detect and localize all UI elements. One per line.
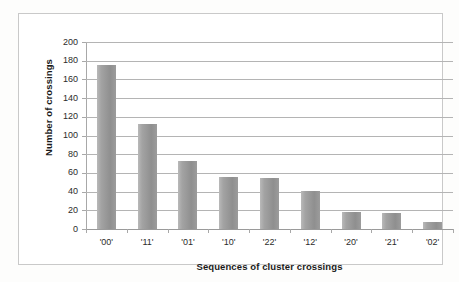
y-tick-label-0: 0 bbox=[38, 225, 78, 234]
x-tick-label-20: '20' bbox=[329, 237, 373, 247]
x-tick-label-00: '00' bbox=[84, 237, 128, 247]
y-tick-label-140: 140 bbox=[38, 94, 78, 103]
x-tick-end bbox=[453, 229, 454, 233]
x-tick-0 bbox=[86, 229, 87, 233]
y-tick-label-160: 160 bbox=[38, 75, 78, 84]
x-tick-label-02: '02' bbox=[411, 237, 455, 247]
y-tick-label-200: 200 bbox=[38, 38, 78, 47]
x-tick-7 bbox=[371, 229, 372, 233]
y-tick-label-80: 80 bbox=[38, 150, 78, 159]
bar-12[interactable] bbox=[301, 191, 320, 229]
bar-00[interactable] bbox=[97, 65, 116, 229]
bar-02[interactable] bbox=[423, 222, 442, 229]
y-tick-label-100: 100 bbox=[38, 131, 78, 140]
bar-22[interactable] bbox=[260, 178, 279, 229]
x-tick-3 bbox=[208, 229, 209, 233]
plot-area bbox=[86, 42, 453, 229]
x-tick-5 bbox=[290, 229, 291, 233]
x-tick-label-12: '12' bbox=[288, 237, 332, 247]
x-axis-title: Sequences of cluster crossings bbox=[86, 261, 453, 272]
gridline-120 bbox=[86, 117, 453, 118]
y-tick-label-120: 120 bbox=[38, 112, 78, 121]
x-tick-label-01: '01' bbox=[166, 237, 210, 247]
y-tick-label-40: 40 bbox=[38, 187, 78, 196]
x-tick-2 bbox=[168, 229, 169, 233]
x-tick-label-10: '10' bbox=[207, 237, 251, 247]
x-tick-8 bbox=[412, 229, 413, 233]
gridline-140 bbox=[86, 98, 453, 99]
x-tick-6 bbox=[331, 229, 332, 233]
gridline-0 bbox=[86, 229, 453, 230]
bar-20[interactable] bbox=[342, 212, 361, 229]
gridline-180 bbox=[86, 61, 453, 62]
y-tick-label-180: 180 bbox=[38, 56, 78, 65]
y-tick-label-60: 60 bbox=[38, 168, 78, 177]
y-tick-label-20: 20 bbox=[38, 206, 78, 215]
x-tick-4 bbox=[249, 229, 250, 233]
x-tick-label-22: '22' bbox=[248, 237, 292, 247]
bar-21[interactable] bbox=[382, 213, 401, 229]
bar-01[interactable] bbox=[178, 161, 197, 229]
x-tick-1 bbox=[127, 229, 128, 233]
x-tick-label-21: '21' bbox=[370, 237, 414, 247]
chart-frame: Number of crossings Sequences of cluster… bbox=[18, 13, 443, 265]
x-tick-label-11: '11' bbox=[125, 237, 169, 247]
bar-10[interactable] bbox=[219, 177, 238, 229]
gridline-160 bbox=[86, 79, 453, 80]
bar-11[interactable] bbox=[138, 124, 157, 229]
gridline-200 bbox=[86, 42, 453, 43]
page-background: Number of crossings Sequences of cluster… bbox=[0, 0, 459, 282]
